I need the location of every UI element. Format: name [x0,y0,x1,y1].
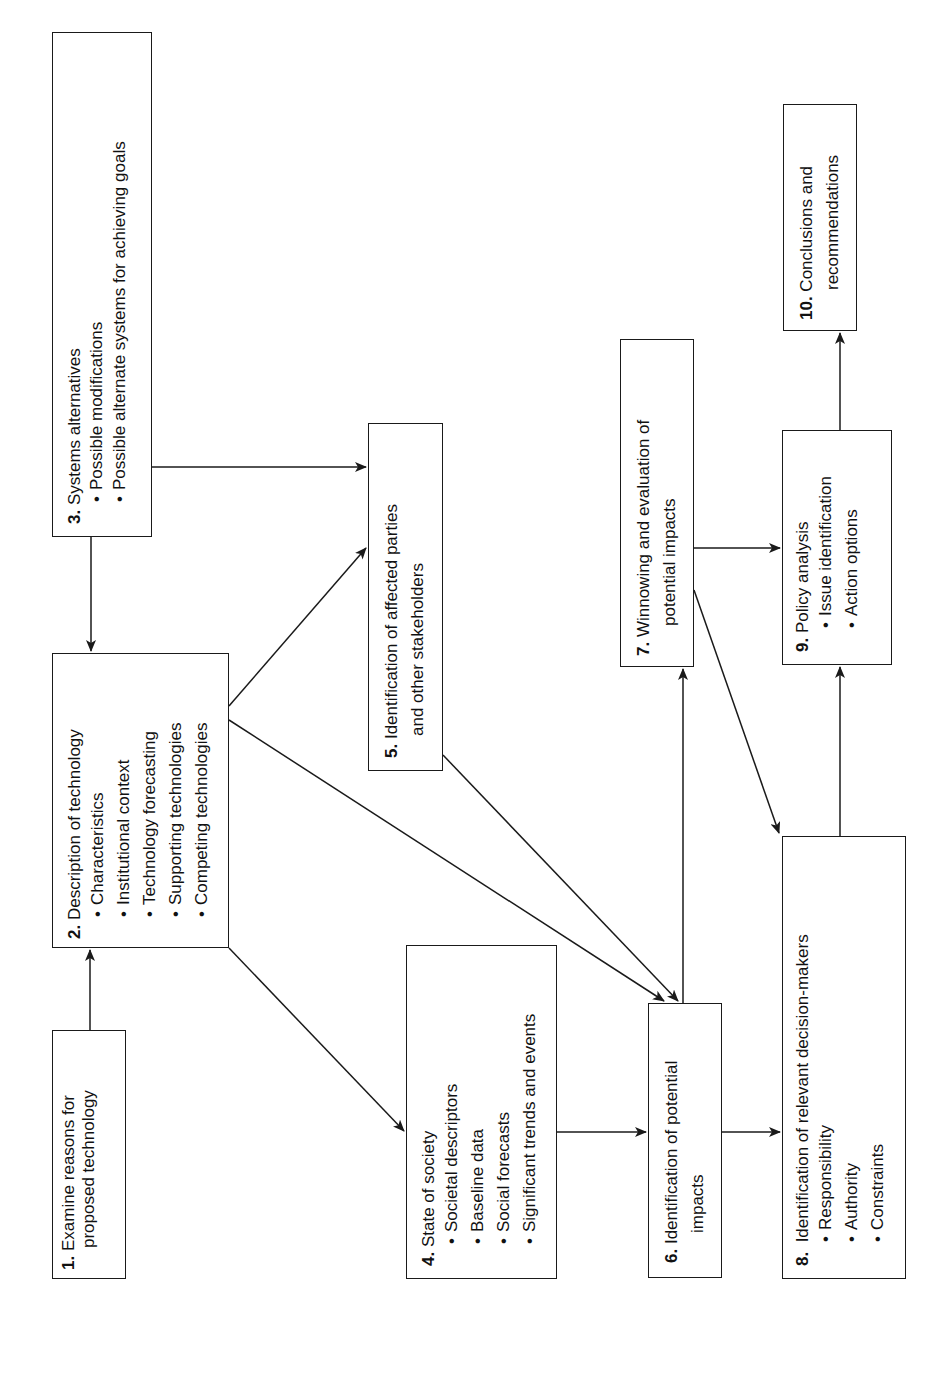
step-2-number: 2. [65,925,84,939]
edge-2-to-5 [229,548,366,706]
bullet-item: Social forecasts [491,956,517,1244]
step-2-title: Description of technology [65,729,84,920]
step-3-bullets: Possible modifications Possible alternat… [85,43,131,502]
step-4-number: 4. [419,1252,438,1266]
step-4-title: State of society [419,1131,438,1247]
step-9-bullets: Issue identification Action options [813,441,865,628]
bullet-item: Action options [839,441,865,628]
step-10-title: Conclusions and [797,166,816,292]
step-8-bullets: Responsibility Authority Constraints [813,847,891,1242]
step-8-title: Identification of relevant decision-make… [793,934,812,1242]
step-5-box: 5. Identification of affected parties an… [368,423,443,771]
step-9-title: Policy analysis [793,522,812,634]
step-8-number: 8. [793,1252,812,1266]
step-10-title-line2: recommendations [820,115,846,320]
step-6-title: Identification of potential [662,1061,681,1244]
step-6-box: 6. Identification of potential impacts [648,1003,722,1278]
step-8-box: 8. Identification of relevant decision-m… [782,836,906,1279]
bullet-item: Baseline data [465,956,491,1244]
edge-2-to-4 [229,948,404,1131]
step-5-number: 5. [382,744,401,758]
bullet-item: Characteristics [85,664,111,917]
bullet-item: Possible modifications [85,43,108,502]
step-1-title-line2: proposed technology [79,1041,99,1270]
step-10-box: 10. Conclusions and recommendations [783,104,857,331]
edge-7-to-8 [694,590,779,833]
step-4-bullets: Societal descriptors Baseline data Socia… [439,956,543,1244]
step-1-box: 1. Examine reasons for proposed technolo… [52,1030,126,1279]
step-2-bullets: Characteristics Institutional context Te… [85,664,215,917]
bullet-item: Societal descriptors [439,956,465,1244]
step-2-box: 2. Description of technology Characteris… [52,653,229,948]
bullet-item: Issue identification [813,441,839,628]
bullet-item: Authority [839,847,865,1242]
bullet-item: Constraints [865,847,891,1242]
step-9-number: 9. [793,638,812,652]
bullet-item: Supporting technologies [163,664,189,917]
bullet-item: Significant trends and events [517,956,543,1244]
step-7-title: Winnowing and evaluation of [634,420,653,637]
step-1-number: 1. [59,1256,78,1270]
step-4-box: 4. State of society Societal descriptors… [406,945,557,1279]
step-7-box: 7. Winnowing and evaluation of potential… [620,339,694,667]
bullet-item: Responsibility [813,847,839,1242]
bullet-item: Competing technologies [189,664,215,917]
bullet-item: Institutional context [111,664,137,917]
step-7-number: 7. [634,642,653,656]
step-5-title-line2: and other stakeholders [405,434,431,758]
step-3-title: Systems alternatives [65,348,84,505]
step-7-title-line2: potential impacts [657,350,683,656]
bullet-item: Possible alternate systems for achieving… [108,43,131,502]
step-3-number: 3. [65,510,84,524]
step-3-box: 3. Systems alternatives Possible modific… [52,32,152,537]
step-9-box: 9. Policy analysis Issue identification … [782,430,892,665]
step-10-number: 10. [797,296,816,320]
step-5-title: Identification of affected parties [382,504,401,739]
step-6-number: 6. [662,1249,681,1263]
step-6-title-line2: impacts [685,1014,711,1263]
bullet-item: Technology forecasting [137,664,163,917]
step-1-title: Examine reasons for [59,1095,78,1251]
